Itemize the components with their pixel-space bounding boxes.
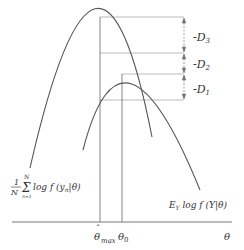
svg-text:max: max: [101, 237, 116, 245]
svg-text:ˆ: ˆ: [95, 224, 100, 234]
label-minus-d2: -D2: [193, 58, 211, 72]
expected-curve-label: EY log f (Y|θ): [168, 200, 227, 211]
svg-text:Σ: Σ: [21, 181, 31, 195]
svg-text:n=1: n=1: [22, 194, 32, 199]
likelihood-diagram: -D3 -D2 -D1 1 N N Σ n=1 log f (yn|θ) EY …: [0, 0, 244, 250]
expected-log-likelihood-curve: [83, 83, 200, 190]
difference-arrows: [182, 18, 185, 99]
tick-label-theta-0: θ0: [118, 231, 129, 244]
svg-text:1: 1: [14, 178, 19, 187]
axis-label-theta: θ: [224, 231, 230, 242]
label-minus-d3: -D3: [193, 31, 211, 45]
svg-text:N: N: [10, 188, 19, 197]
svg-text:log f (yn|θ): log f (yn|θ): [33, 182, 81, 193]
empirical-log-likelihood-curve: [30, 8, 152, 168]
tick-label-theta-max: θ ˆ max: [94, 224, 116, 245]
label-minus-d1: -D1: [193, 83, 210, 97]
svg-text:N: N: [23, 173, 30, 180]
empirical-curve-label: 1 N N Σ n=1 log f (yn|θ): [10, 173, 81, 199]
